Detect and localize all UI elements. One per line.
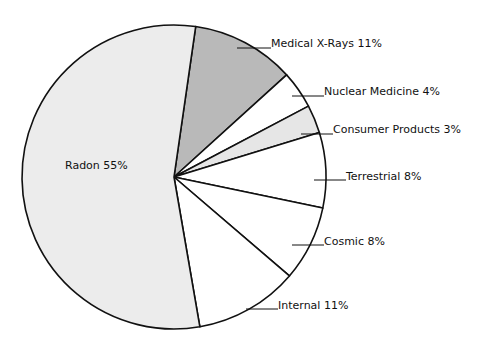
- slice-label: Radon 55%: [65, 159, 128, 172]
- slice-label: Consumer Products 3%: [333, 123, 461, 136]
- slice-label: Terrestrial 8%: [345, 170, 421, 183]
- slice-label: Medical X-Rays 11%: [271, 37, 382, 50]
- pie-slice-radon: [22, 25, 200, 329]
- slice-label: Internal 11%: [278, 299, 348, 312]
- slice-label: Nuclear Medicine 4%: [324, 85, 440, 98]
- pie-slices: [22, 25, 326, 329]
- slice-label: Cosmic 8%: [324, 235, 385, 248]
- pie-chart: Medical X-Rays 11%Nuclear Medicine 4%Con…: [0, 0, 477, 350]
